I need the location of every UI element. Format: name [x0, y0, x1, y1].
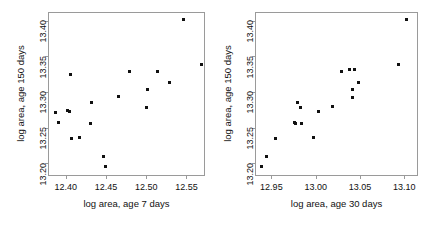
- x-tick: [316, 176, 317, 179]
- data-point: [340, 70, 343, 73]
- x-tick-label: 13.05: [340, 182, 380, 192]
- data-point: [57, 121, 60, 124]
- data-point: [312, 136, 315, 139]
- x-tick: [186, 176, 187, 179]
- scatterplot-figure: 12.4012.4512.5012.55 13.2013.2513.3013.3…: [0, 0, 434, 226]
- x-tick-label: 13.00: [296, 182, 336, 192]
- data-point: [348, 68, 351, 71]
- data-point: [299, 106, 302, 109]
- data-point: [353, 68, 356, 71]
- x-tick-label: 13.10: [384, 182, 424, 192]
- data-point: [351, 88, 354, 91]
- x-axis-title-left: log area, age 7 days: [48, 198, 205, 209]
- data-point: [265, 155, 268, 158]
- data-point: [397, 63, 400, 66]
- x-tick: [360, 176, 361, 179]
- plot-frame-right: [255, 12, 418, 176]
- data-point: [69, 73, 72, 76]
- x-tick: [146, 176, 147, 179]
- x-tick: [404, 176, 405, 179]
- x-tick: [271, 176, 272, 179]
- data-point: [351, 96, 354, 99]
- data-point: [331, 105, 334, 108]
- data-point: [357, 81, 360, 84]
- data-point: [300, 122, 303, 125]
- data-point: [102, 155, 105, 158]
- y-tick-label: 13.40: [245, 20, 255, 64]
- y-axis-title-left: log area, age 150 days: [15, 12, 26, 176]
- data-point: [405, 18, 408, 21]
- data-point: [117, 95, 120, 98]
- x-tick-label: 12.55: [166, 182, 206, 192]
- x-tick-label: 12.45: [86, 182, 126, 192]
- x-tick-label: 12.50: [126, 182, 166, 192]
- data-point: [200, 63, 203, 66]
- data-point: [317, 110, 320, 113]
- data-point: [296, 101, 299, 104]
- x-tick: [66, 176, 67, 179]
- x-tick-label: 12.40: [46, 182, 86, 192]
- data-point: [104, 165, 107, 168]
- data-point: [145, 106, 148, 109]
- data-point: [146, 88, 149, 91]
- data-point: [294, 122, 297, 125]
- data-point: [54, 111, 57, 114]
- x-tick: [106, 176, 107, 179]
- data-point: [182, 18, 185, 21]
- y-tick-label: 13.40: [38, 20, 48, 64]
- data-point: [168, 81, 171, 84]
- x-tick-label: 12.95: [251, 182, 291, 192]
- data-point: [274, 137, 277, 140]
- data-point: [128, 70, 131, 73]
- data-point: [78, 136, 81, 139]
- data-point: [66, 109, 69, 112]
- data-point: [260, 165, 263, 168]
- y-axis-title-right: log area, age 150 days: [222, 12, 233, 176]
- plot-frame-left: [48, 12, 205, 176]
- x-axis-title-right: log area, age 30 days: [255, 198, 418, 209]
- data-point: [156, 70, 159, 73]
- data-point: [90, 101, 93, 104]
- data-point: [89, 122, 92, 125]
- data-point: [70, 137, 73, 140]
